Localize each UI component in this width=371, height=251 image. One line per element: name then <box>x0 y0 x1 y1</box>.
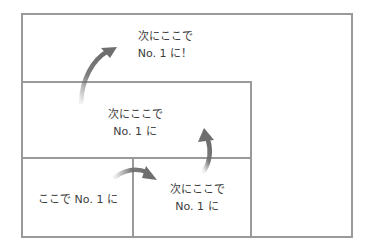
arrow-bottom-right-to-middle <box>198 128 214 171</box>
arrowhead-icon <box>198 128 214 142</box>
arrowhead-icon <box>142 166 157 180</box>
arrow-middle-to-top <box>81 47 117 102</box>
arrows-layer <box>0 0 371 251</box>
arrow-bottom-left-to-bottom-right <box>115 166 157 180</box>
